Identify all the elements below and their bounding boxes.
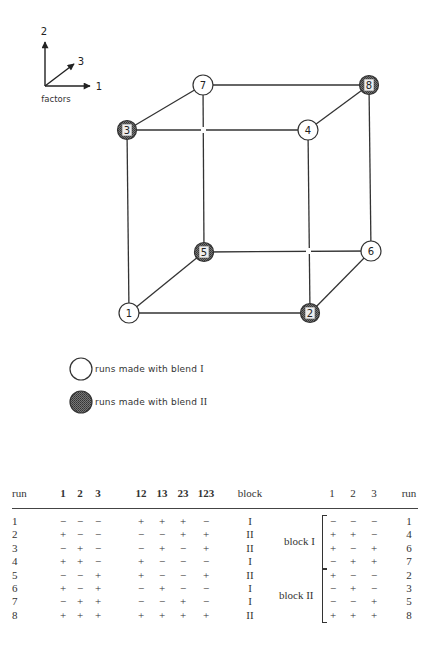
cell-i13: + xyxy=(159,583,165,594)
block-cell-f1: − xyxy=(330,596,336,607)
block-cell-f2: − xyxy=(350,569,356,580)
cell-i12: + xyxy=(138,516,144,527)
header-right-factor-2: 2 xyxy=(350,488,356,499)
axis-2-label: 2 xyxy=(41,26,47,37)
cell-i123: + xyxy=(203,529,209,540)
legend-blend-ii-text: runs made with blend xyxy=(95,397,197,407)
cell-run: 2 xyxy=(12,529,18,540)
block-cell-f3: + xyxy=(371,596,377,607)
cell-i13: − xyxy=(159,596,165,607)
cell-f2: + xyxy=(77,556,83,567)
cell-i23: − xyxy=(180,542,186,553)
cell-i123: − xyxy=(203,596,209,607)
cell-i12: + xyxy=(138,609,144,620)
cell-run: 7 xyxy=(12,596,18,607)
cell-i13: − xyxy=(159,529,165,540)
run-node-1: 1 xyxy=(119,303,139,323)
block-cell-run: 2 xyxy=(406,569,412,580)
cube-edges xyxy=(127,85,371,313)
cell-i123: − xyxy=(203,516,209,527)
svg-text:5: 5 xyxy=(201,247,207,258)
header-right-factor-3: 3 xyxy=(371,488,377,499)
cell-block: II xyxy=(246,569,253,580)
cell-i12: − xyxy=(138,542,144,553)
block-cell-f2: + xyxy=(350,583,356,594)
header-interaction-13: 13 xyxy=(157,488,168,499)
cell-i12: − xyxy=(138,596,144,607)
cell-i12: + xyxy=(138,569,144,580)
cell-run: 8 xyxy=(12,609,18,620)
cell-f3: + xyxy=(95,583,101,594)
cell-i123: − xyxy=(203,583,209,594)
block-cell-f1: + xyxy=(330,542,336,553)
run-node-3: 3 xyxy=(118,121,137,140)
block-cell-f1: + xyxy=(330,529,336,540)
block-label: block I xyxy=(284,535,315,547)
block-bracket xyxy=(322,515,327,569)
block-cell-run: 5 xyxy=(406,596,412,607)
cell-f1: + xyxy=(60,556,66,567)
cell-f1: + xyxy=(60,529,66,540)
legend-blend-ii: runs made with blend II xyxy=(95,396,207,407)
legend-blend-i-roman: I xyxy=(200,363,204,374)
factors-axes-key: 2 1 3 factors xyxy=(41,26,102,104)
svg-text:1: 1 xyxy=(126,308,132,319)
cell-f2: − xyxy=(77,516,83,527)
block-cell-f2: − xyxy=(350,542,356,553)
block-cell-run: 3 xyxy=(406,583,412,594)
axis-3-label: 3 xyxy=(78,56,84,67)
factors-label: factors xyxy=(41,94,71,104)
run-node-6: 6 xyxy=(361,241,381,261)
cell-f2: + xyxy=(77,596,83,607)
cell-f1: − xyxy=(60,569,66,580)
block-cell-f2: + xyxy=(350,529,356,540)
cell-i123: − xyxy=(203,556,209,567)
cell-f2: + xyxy=(77,542,83,553)
header-factor-1: 1 xyxy=(60,488,66,499)
block-cell-f3: − xyxy=(371,516,377,527)
legend-blend-i: runs made with blend I xyxy=(95,363,204,374)
header-interaction-12: 12 xyxy=(136,488,147,499)
svg-text:3: 3 xyxy=(124,125,130,136)
cell-i13: − xyxy=(159,556,165,567)
block-cell-f2: + xyxy=(350,556,356,567)
cell-i23: − xyxy=(180,556,186,567)
header-run: run xyxy=(12,488,27,499)
block-cell-f2: + xyxy=(350,609,356,620)
svg-text:8: 8 xyxy=(366,80,372,91)
cell-f2: + xyxy=(77,609,83,620)
run-node-2: 2 xyxy=(301,304,320,323)
block-cell-run: 7 xyxy=(406,556,412,567)
cell-block: I xyxy=(248,556,252,567)
header-interaction-23: 23 xyxy=(178,488,189,499)
run-node-7: 7 xyxy=(193,75,213,95)
block-cell-run: 4 xyxy=(406,529,412,540)
cube-diagram: 2 1 3 factors 1 2 xyxy=(0,0,431,420)
cell-i23: − xyxy=(180,569,186,580)
cell-i23: + xyxy=(180,609,186,620)
cell-f3: + xyxy=(95,609,101,620)
svg-text:2: 2 xyxy=(307,308,313,319)
legend-blend-i-circle-icon xyxy=(70,358,92,380)
cell-i12: − xyxy=(138,583,144,594)
cell-run: 1 xyxy=(12,516,18,527)
svg-text:7: 7 xyxy=(200,80,206,91)
run-node-8: 8 xyxy=(360,76,379,95)
cell-f3: − xyxy=(95,529,101,540)
cell-f1: + xyxy=(60,609,66,620)
run-node-4: 4 xyxy=(298,120,318,140)
cell-block: I xyxy=(248,596,252,607)
block-cell-f1: + xyxy=(330,569,336,580)
block-cell-f1: − xyxy=(330,556,336,567)
cell-run: 6 xyxy=(12,583,18,594)
block-cell-f1: − xyxy=(330,583,336,594)
block-cell-f3: − xyxy=(371,529,377,540)
block-cell-f2: − xyxy=(350,596,356,607)
cell-f2: − xyxy=(77,569,83,580)
cell-i23: + xyxy=(180,516,186,527)
cell-i13: + xyxy=(159,609,165,620)
cell-block: II xyxy=(246,529,253,540)
run-node-5: 5 xyxy=(195,243,214,262)
block-bracket xyxy=(322,569,327,623)
svg-text:4: 4 xyxy=(305,125,311,136)
